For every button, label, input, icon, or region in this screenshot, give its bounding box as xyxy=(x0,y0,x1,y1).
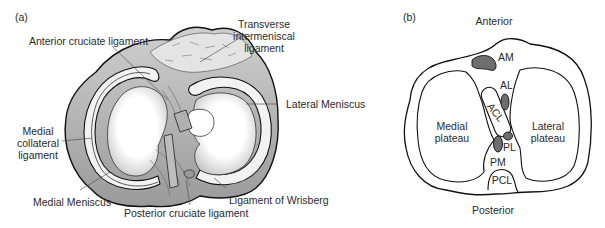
label-pcl: Posterior cruciate ligament xyxy=(124,207,248,219)
label-lateral-meniscus: Lateral Meniscus xyxy=(286,98,365,110)
wrisberg-structure xyxy=(184,170,194,178)
label-transverse-2: intermeniscal xyxy=(233,30,295,42)
panel-b-tag: (b) xyxy=(403,11,416,23)
lateral-tubercle xyxy=(187,109,214,136)
label-pl: PL xyxy=(503,141,516,153)
am-insertion xyxy=(472,56,496,71)
label-mcl-1: Medial xyxy=(23,125,54,137)
panel-b: (b) Anterior Posterior Medial plateau La… xyxy=(403,11,591,216)
label-mcl-2: collateral xyxy=(17,137,59,149)
panel-a-tag: (a) xyxy=(15,11,28,23)
al-insertion xyxy=(501,94,509,110)
label-transverse-1: Transverse xyxy=(238,18,290,30)
label-transverse-3: ligament xyxy=(244,42,284,54)
label-mcl-3: ligament xyxy=(18,149,58,161)
label-am: AM xyxy=(498,51,514,63)
label-posterior: Posterior xyxy=(472,204,515,216)
label-lateral-plateau-1: Lateral xyxy=(532,120,564,132)
label-acl: Anterior cruciate ligament xyxy=(29,35,148,47)
label-pcl-b: PCL xyxy=(492,174,513,186)
label-lateral-plateau-2: plateau xyxy=(531,132,566,144)
label-medial-plateau-1: Medial xyxy=(437,120,468,132)
pm-insertion xyxy=(494,136,503,152)
label-al: AL xyxy=(500,79,513,91)
label-wrisberg: Ligament of Wrisberg xyxy=(229,194,329,206)
label-medial-meniscus: Medial Meniscus xyxy=(33,196,111,208)
pl-insertion xyxy=(504,132,513,140)
label-anterior: Anterior xyxy=(476,15,513,27)
label-medial-plateau-2: plateau xyxy=(435,132,470,144)
figure-canvas: (a) xyxy=(0,0,605,228)
label-pm: PM xyxy=(490,156,506,168)
panel-a: (a) xyxy=(15,11,365,219)
